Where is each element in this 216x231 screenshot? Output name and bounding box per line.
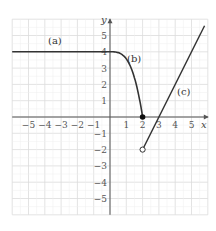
svg-text:−2: −2 [94, 145, 107, 155]
series-label-b: (b) [127, 53, 141, 64]
axes [12, 18, 209, 215]
svg-text:−5: −5 [94, 194, 108, 204]
svg-text:1: 1 [123, 120, 129, 130]
svg-text:4: 4 [172, 120, 178, 130]
series-label-c: (c) [177, 86, 191, 97]
function-graph: −5−4−3−2−11234554321−1−2−3−4−5 x y (a) (… [0, 0, 216, 231]
y-axis-label: y [100, 14, 107, 25]
svg-text:−4: −4 [38, 120, 52, 130]
svg-text:5: 5 [101, 31, 107, 41]
svg-text:5: 5 [189, 120, 195, 130]
svg-text:3: 3 [101, 64, 107, 74]
svg-text:−5: −5 [22, 120, 36, 130]
svg-text:2: 2 [140, 120, 146, 130]
series-label-a: (a) [48, 35, 62, 46]
x-axis-label: x [201, 119, 207, 130]
svg-text:2: 2 [101, 80, 107, 90]
svg-text:−1: −1 [94, 129, 107, 139]
svg-text:−3: −3 [54, 120, 68, 130]
svg-text:1: 1 [101, 96, 107, 106]
svg-text:−2: −2 [71, 120, 84, 130]
svg-text:−3: −3 [94, 161, 108, 171]
svg-text:−4: −4 [94, 178, 108, 188]
